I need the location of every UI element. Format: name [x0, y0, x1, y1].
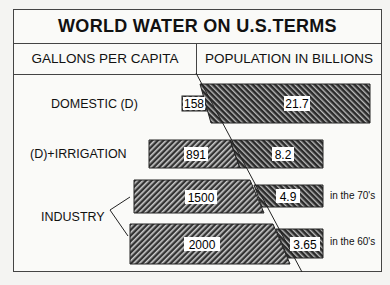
svg-text:891: 891: [186, 148, 206, 162]
svg-text:8.2: 8.2: [275, 148, 292, 162]
svg-text:158: 158: [184, 97, 204, 111]
svg-text:2000: 2000: [189, 238, 216, 252]
svg-text:3.65: 3.65: [293, 238, 317, 252]
in-70s-note: in the 70's: [330, 190, 375, 201]
in-60s-note: in the 60's: [330, 236, 375, 247]
industry-label: INDUSTRY: [41, 210, 105, 224]
svg-text:4.9: 4.9: [280, 190, 297, 204]
domestic-label: DOMESTIC (D): [51, 97, 138, 111]
svg-text:1500: 1500: [188, 191, 215, 205]
irrigation-label: (D)+IRRIGATION: [30, 147, 127, 161]
svg-text:21.7: 21.7: [285, 97, 309, 111]
